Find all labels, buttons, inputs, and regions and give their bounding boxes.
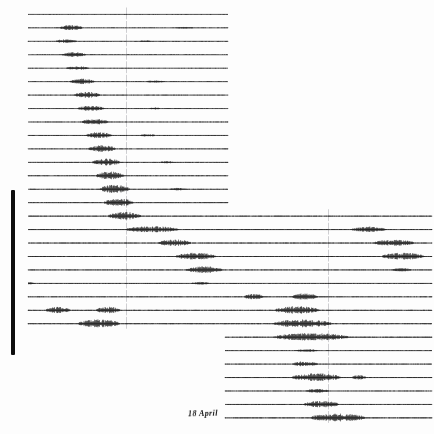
left-margin-bar — [11, 190, 15, 355]
seismogram-sheet: SEISMOGRAM RECORD SHEET STATION ARCHIVE … — [0, 0, 434, 434]
seismogram-trace-canvas — [0, 0, 434, 434]
date-label: 18 April — [188, 409, 218, 419]
